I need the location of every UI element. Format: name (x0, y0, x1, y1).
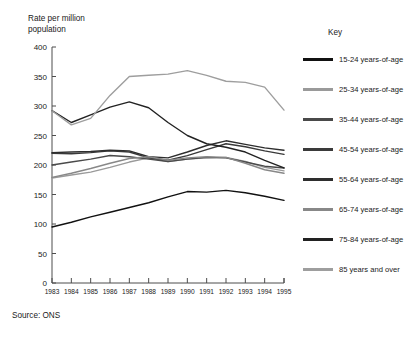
legend-item: 55-64 years-of-age (303, 164, 420, 194)
chart-series (52, 71, 284, 227)
x-tick-label: 1994 (257, 288, 272, 295)
legend-item: 25-34 years-of-age (303, 74, 420, 104)
x-tick-label: 1984 (64, 288, 79, 295)
y-tick-label: 100 (34, 220, 48, 229)
source-note: Source: ONS (12, 311, 60, 320)
x-tick-label: 1987 (122, 288, 137, 295)
legend-item: 15-24 years-of-age (303, 44, 420, 74)
legend-swatch-icon (303, 118, 333, 121)
x-tick-label: 1993 (238, 288, 253, 295)
legend-swatch-icon (303, 178, 333, 181)
legend-item: 65-74 years-of-age (303, 194, 420, 224)
y-tick-label: 200 (34, 161, 48, 170)
x-tick-label: 1985 (83, 288, 98, 295)
x-tick-label: 1989 (161, 288, 176, 295)
y-tick-label: 50 (38, 250, 47, 259)
y-tick-label: 300 (34, 102, 48, 111)
x-tick-label: 1986 (103, 288, 118, 295)
legend-swatch-icon (303, 268, 333, 271)
x-tick-label: 1995 (277, 288, 292, 295)
legend-swatch-icon (303, 58, 333, 61)
legend-item-label: 55-64 years-of-age (339, 175, 403, 184)
legend-item-label: 35-44 years-of-age (339, 115, 403, 124)
legend-item-label: 65-74 years-of-age (339, 205, 403, 214)
chart-legend: 15-24 years-of-age25-34 years-of-age35-4… (303, 44, 420, 284)
legend-item-label: 85 years and over (339, 265, 400, 274)
legend-item: 35-44 years-of-age (303, 104, 420, 134)
legend-title: Key (328, 28, 342, 37)
x-tick-label: 1992 (219, 288, 234, 295)
y-tick-label: 400 (34, 43, 48, 52)
x-tick-label: 1990 (180, 288, 195, 295)
y-tick-label: 350 (34, 73, 48, 82)
series-line (52, 190, 284, 227)
legend-item-label: 15-24 years-of-age (339, 55, 403, 64)
legend-swatch-icon (303, 238, 333, 241)
y-tick-label: 250 (34, 132, 48, 141)
y-tick-label: 0 (43, 279, 48, 288)
series-line (52, 141, 284, 158)
legend-swatch-icon (303, 148, 333, 151)
x-tick-label: 1991 (199, 288, 214, 295)
legend-item-label: 75-84 years-of-age (339, 235, 403, 244)
legend-item: 85 years and over (303, 254, 420, 284)
legend-item-label: 25-34 years-of-age (339, 85, 403, 94)
x-tick-label: 1988 (141, 288, 156, 295)
legend-swatch-icon (303, 208, 333, 211)
chart-container: Rate per million population 050100150200… (0, 0, 420, 339)
legend-item-label: 45-54 years-of-age (339, 145, 403, 154)
x-axis-ticks: 1983198419851986198719881989199019911992… (45, 278, 292, 295)
legend-swatch-icon (303, 88, 333, 91)
y-axis-ticks: 050100150200250300350400 (34, 43, 56, 288)
x-tick-label: 1983 (45, 288, 60, 295)
legend-item: 75-84 years-of-age (303, 224, 420, 254)
legend-item: 45-54 years-of-age (303, 134, 420, 164)
y-tick-label: 150 (34, 191, 48, 200)
